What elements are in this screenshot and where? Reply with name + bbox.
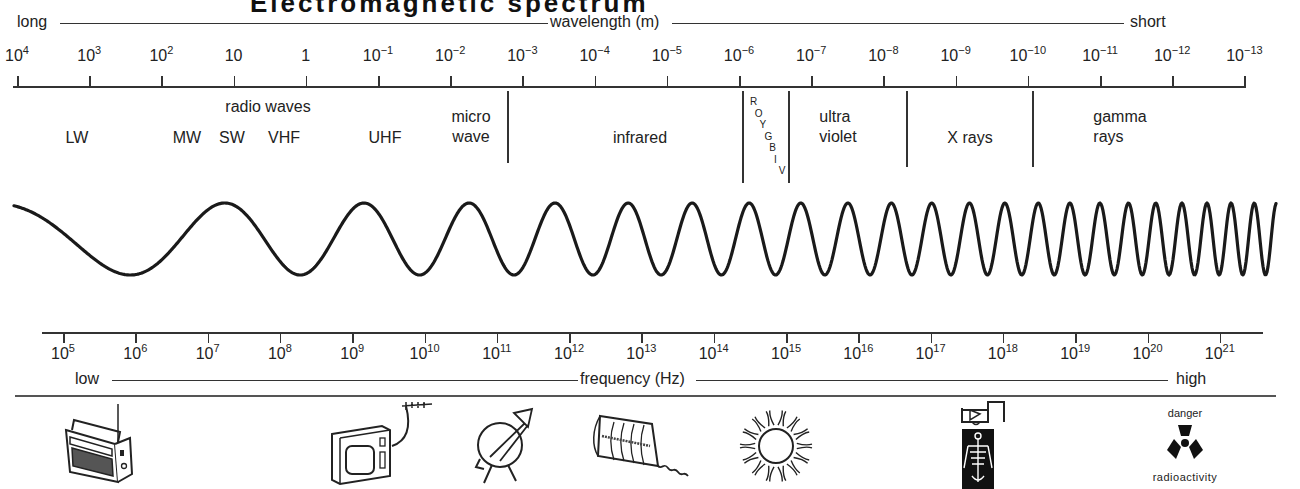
frequency-tick-mark xyxy=(641,334,643,343)
microwave-line1: micro xyxy=(451,107,490,127)
wavelength-tick-label: 10−6 xyxy=(724,47,754,65)
visible-letter: R xyxy=(750,96,757,107)
frequency-tick-label: 1012 xyxy=(554,345,584,363)
frequency-tick-mark xyxy=(1003,334,1005,343)
frequency-tick-mark xyxy=(786,334,788,343)
wavelength-tick-mark xyxy=(378,76,380,86)
wavelength-tick-mark xyxy=(667,76,669,86)
frequency-tick-mark xyxy=(931,334,933,343)
divider-infrared-visible xyxy=(742,91,744,183)
wavelength-right-rule xyxy=(672,23,1124,24)
wavelength-tick-mark xyxy=(161,76,163,86)
visible-letter: O xyxy=(755,108,763,119)
television-icon xyxy=(330,402,450,482)
visible-letter: Y xyxy=(760,119,767,130)
frequency-tick-label: 109 xyxy=(340,345,364,363)
wavelength-tick-mark xyxy=(89,76,91,86)
frequency-axis-line xyxy=(42,332,1263,334)
frequency-tick-mark xyxy=(425,334,427,343)
frequency-tick-label: 1013 xyxy=(626,345,656,363)
frequency-tick-label: 1021 xyxy=(1205,345,1235,363)
frequency-tick-label: 1019 xyxy=(1060,345,1090,363)
frequency-tick-mark xyxy=(63,334,65,343)
frequency-tick-mark xyxy=(1148,334,1150,343)
gamma-line2: rays xyxy=(1093,127,1146,147)
microwave-label: micro wave xyxy=(451,107,490,147)
frequency-left-rule xyxy=(112,380,578,381)
xrays-label: X rays xyxy=(947,128,992,148)
xray-icon xyxy=(958,402,1018,489)
frequency-tick-label: 107 xyxy=(196,345,220,363)
infrared-label: infrared xyxy=(613,128,667,148)
wavelength-tick-mark xyxy=(17,76,19,86)
wavelength-long-label: long xyxy=(17,13,47,31)
wavelength-tick-label: 10−3 xyxy=(507,47,537,65)
ultraviolet-line1: ultra xyxy=(819,107,856,127)
gamma-rays-label: gamma rays xyxy=(1093,107,1146,147)
divider-ultraviolet-xrays xyxy=(906,91,908,167)
wavelength-tick-mark xyxy=(306,76,308,86)
wavelength-tick-label: 102 xyxy=(149,47,173,65)
divider-microwave-infrared xyxy=(507,91,509,163)
divider-xrays-gamma xyxy=(1032,91,1034,167)
frequency-tick-label: 105 xyxy=(51,345,75,363)
frequency-tick-label: 108 xyxy=(268,345,292,363)
wavelength-tick-label: 10−1 xyxy=(363,47,393,65)
frequency-tick-mark xyxy=(208,334,210,343)
frequency-right-rule xyxy=(696,380,1168,381)
uhf-label: UHF xyxy=(369,128,402,148)
wavelength-tick-label: 10−8 xyxy=(868,47,898,65)
danger-label: danger xyxy=(1145,407,1225,419)
frequency-tick-mark xyxy=(135,334,137,343)
wavelength-tick-mark xyxy=(883,76,885,86)
frequency-tick-label: 1011 xyxy=(482,345,511,363)
wavelength-tick-label: 10−13 xyxy=(1226,47,1262,65)
wave-illustration xyxy=(0,185,1300,295)
visible-letter: B xyxy=(769,142,776,153)
radiant-heater-icon xyxy=(592,410,702,489)
frequency-low-label: low xyxy=(75,370,99,388)
frequency-tick-mark xyxy=(1220,334,1222,343)
frequency-tick-label: 106 xyxy=(123,345,147,363)
wavelength-tick-label: 10−10 xyxy=(1010,47,1046,65)
frequency-tick-label: 1010 xyxy=(409,345,439,363)
bottom-separator xyxy=(15,395,1276,397)
wavelength-tick-mark xyxy=(811,76,813,86)
wavelength-short-label: short xyxy=(1130,13,1166,31)
wavelength-center-label: wavelength (m) xyxy=(550,13,659,31)
gamma-line1: gamma xyxy=(1093,107,1146,127)
wavelength-left-rule xyxy=(60,23,548,24)
ultraviolet-label: ultra violet xyxy=(819,107,856,147)
wavelength-axis-line xyxy=(13,86,1246,88)
radioactivity-symbol: danger radioactivity xyxy=(1145,407,1225,487)
divider-visible-ultraviolet xyxy=(788,91,790,183)
sw-label: SW xyxy=(219,128,245,148)
vhf-label: VHF xyxy=(268,128,300,148)
lw-label: LW xyxy=(66,128,89,148)
wavelength-tick-mark xyxy=(1244,76,1246,86)
wavelength-tick-mark xyxy=(1100,76,1102,86)
wavelength-tick-label: 103 xyxy=(77,47,101,65)
wavelength-tick-mark xyxy=(450,76,452,86)
frequency-tick-mark xyxy=(1075,334,1077,343)
frequency-tick-label: 1014 xyxy=(699,345,729,363)
wavelength-tick-label: 10−11 xyxy=(1082,47,1118,65)
mw-label: MW xyxy=(173,128,201,148)
frequency-tick-mark xyxy=(497,334,499,343)
wavelength-tick-label: 104 xyxy=(5,47,29,65)
wavelength-tick-label: 1 xyxy=(301,47,310,65)
radioactivity-label: radioactivity xyxy=(1145,471,1225,483)
wavelength-tick-label: 10−5 xyxy=(652,47,682,65)
visible-letter: I xyxy=(774,154,777,165)
frequency-tick-mark xyxy=(858,334,860,343)
radio-icon xyxy=(60,402,140,482)
radioactivity-icon xyxy=(1165,423,1205,461)
wavelength-tick-mark xyxy=(956,76,958,86)
wavelength-tick-label: 10−7 xyxy=(796,47,826,65)
frequency-tick-label: 1017 xyxy=(916,345,946,363)
frequency-tick-mark xyxy=(714,334,716,343)
satellite-dish-icon xyxy=(470,405,540,485)
frequency-tick-mark xyxy=(569,334,571,343)
wavelength-tick-label: 10 xyxy=(225,47,243,65)
wavelength-tick-mark xyxy=(522,76,524,86)
